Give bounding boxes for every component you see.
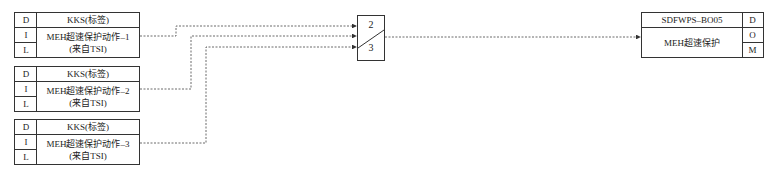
i-cell: I bbox=[15, 28, 37, 43]
wire-input-3 bbox=[140, 47, 356, 143]
desc-line-1: MEH超速保护动作–2 bbox=[37, 85, 139, 97]
l-cell: L bbox=[15, 97, 37, 112]
desc-line-2: (来自TSI) bbox=[37, 97, 139, 109]
input-block-3: D I L KKS(标签) MEH超速保护动作–3 (来自TSI) bbox=[14, 119, 140, 165]
voter-top-label: 2 bbox=[358, 19, 384, 30]
input-block-2: D I L KKS(标签) MEH超速保护动作–2 (来自TSI) bbox=[14, 66, 140, 112]
i-cell: I bbox=[15, 135, 37, 150]
kks-tag: KKS(标签) bbox=[37, 120, 139, 135]
i-cell: I bbox=[15, 82, 37, 97]
two-out-of-three-voter: 2 3 bbox=[357, 15, 385, 61]
d-cell: D bbox=[15, 13, 37, 28]
d-cell: D bbox=[15, 120, 37, 135]
block-description: MEH超速保护动作–3 (来自TSI) bbox=[37, 135, 139, 164]
output-block: SDFWPS–BO05 MEH超速保护 D O M bbox=[641, 12, 764, 58]
kks-tag: KKS(标签) bbox=[37, 13, 139, 28]
desc-line-2: (来自TSI) bbox=[37, 150, 139, 162]
wire-input-2 bbox=[140, 36, 356, 89]
desc-line-1: MEH超速保护动作–3 bbox=[37, 138, 139, 150]
d-cell: D bbox=[15, 67, 37, 82]
wire-input-1 bbox=[140, 26, 356, 36]
desc-line-1: MEH超速保护动作–1 bbox=[37, 31, 139, 43]
kks-tag: KKS(标签) bbox=[37, 67, 139, 82]
output-description: MEH超速保护 bbox=[642, 28, 742, 57]
input-block-1: D I L KKS(标签) MEH超速保护动作–1 (来自TSI) bbox=[14, 12, 140, 58]
o-cell: O bbox=[742, 28, 763, 43]
m-cell: M bbox=[742, 43, 763, 58]
desc-line-2: (来自TSI) bbox=[37, 43, 139, 55]
d-cell: D bbox=[742, 13, 763, 28]
block-description: MEH超速保护动作–1 (来自TSI) bbox=[37, 28, 139, 57]
output-tag: SDFWPS–BO05 bbox=[642, 13, 742, 28]
block-description: MEH超速保护动作–2 (来自TSI) bbox=[37, 82, 139, 111]
l-cell: L bbox=[15, 43, 37, 58]
voter-bottom-label: 3 bbox=[358, 42, 384, 53]
l-cell: L bbox=[15, 150, 37, 165]
